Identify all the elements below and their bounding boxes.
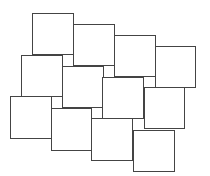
square-tile	[32, 13, 74, 55]
tiling-diagram	[0, 0, 210, 176]
square-tile	[114, 35, 156, 77]
square-tile	[21, 55, 63, 97]
square-tile	[144, 87, 185, 129]
square-tile	[133, 130, 175, 172]
square-tile	[73, 24, 115, 66]
square-tile	[62, 66, 104, 108]
square-tile	[10, 96, 52, 139]
square-tile	[51, 108, 92, 151]
square-tile	[91, 118, 133, 161]
square-tile	[102, 77, 144, 119]
square-tile	[155, 46, 196, 88]
